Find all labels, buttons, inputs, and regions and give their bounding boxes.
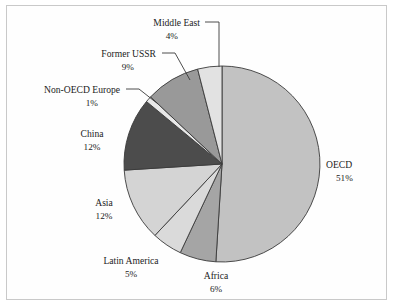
slice-label-name: Middle East [153,17,200,28]
slice-label-former-ussr: Former USSR9% [101,48,156,72]
slice-label-oecd: OECD51% [326,159,353,183]
slice-label-name: Asia [95,197,113,208]
slice-label-percent: 1% [86,98,99,108]
slice-label-percent: 9% [122,62,135,72]
slice-label-name: OECD [326,159,352,170]
slice-label-percent: 4% [166,31,179,41]
slice-label-percent: 6% [210,284,223,294]
slice-label-percent: 12% [96,211,113,221]
slice-label-africa: Africa6% [204,270,229,294]
slice-label-name: Latin America [103,255,159,266]
slice-label-percent: 51% [336,173,353,183]
slice-label-middle-east: Middle East4% [153,17,200,41]
slice-label-name: China [81,128,105,139]
slice-label-latin-america: Latin America5% [103,255,159,279]
pie-chart-figure: OECD51%Africa6%Latin America5%Asia12%Chi… [0,0,393,306]
pie-slice-oecd[interactable] [216,66,320,262]
slice-label-percent: 12% [84,142,101,152]
slice-label-non-oecd-europe: Non-OECD Europe1% [44,84,120,108]
slice-label-percent: 5% [125,269,138,279]
pie-chart-svg: OECD51%Africa6%Latin America5%Asia12%Chi… [0,0,393,306]
slice-label-name: Former USSR [101,48,156,59]
slice-label-asia: Asia12% [95,197,113,221]
slice-label-name: Non-OECD Europe [44,84,120,95]
pie-slices-group [124,66,320,262]
slice-label-china: China12% [81,128,105,152]
leader-line-middle-east [205,22,219,67]
slice-label-name: Africa [204,270,229,281]
